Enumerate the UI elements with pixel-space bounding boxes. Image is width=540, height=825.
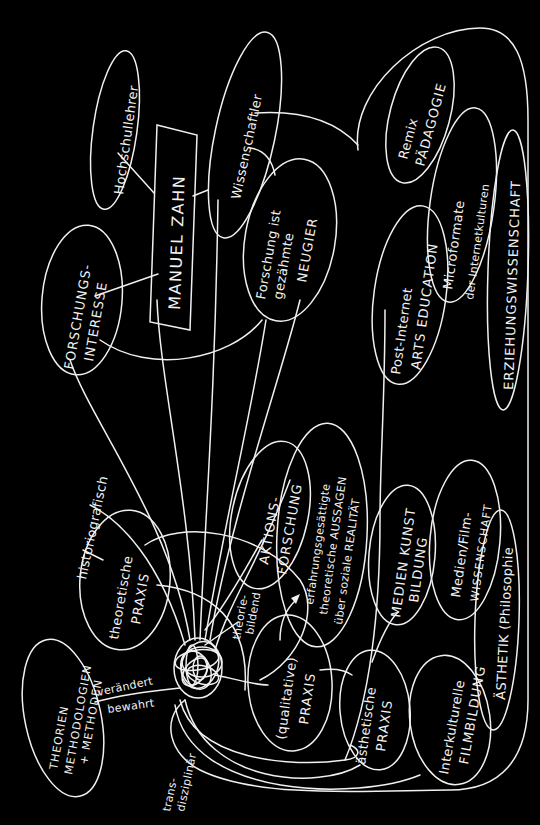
scribble-hub-icon [174, 636, 226, 698]
connector-wissenschaftler-loop [255, 112, 358, 145]
label-hochschullehrer: Hochschullehrer [111, 84, 141, 195]
annotation-historiografisch: historiografisch [74, 475, 111, 581]
concept-map-svg: MANUEL ZAHN Hochschullehrer Wissenschaft… [0, 0, 540, 825]
node-theorien-methodologien[interactable]: THEORIEN METHODOLOGIEN + METHODEN [9, 632, 117, 804]
node-qualitative-praxis[interactable]: (qualitative) PRAXIS [244, 613, 335, 753]
label-aesthetische-line2: PRAXIS [373, 699, 395, 753]
arrow-head-icon [291, 594, 300, 604]
annotation-bewahrt: bewahrt [107, 696, 156, 716]
label-aesthetik: ÄSTHETIK (Philosophie [493, 547, 516, 701]
ray [157, 300, 195, 640]
loop-bottom-1 [180, 700, 358, 763]
ray [70, 360, 190, 640]
node-erziehungswissenschaft[interactable]: ERZIEHUNGSWISSENSCHAFT [483, 129, 533, 410]
label-qualitative-line2: PRAXIS [296, 672, 318, 726]
label-postinternet-line2: ARTS EDUCATION [408, 242, 441, 371]
label-theoretische-line1: theoretische [106, 554, 135, 640]
node-manuel-zahn[interactable]: MANUEL ZAHN [150, 125, 197, 330]
node-remix-paedagogie[interactable]: Remix PÄDAGOGIE [373, 40, 467, 191]
center-label: MANUEL ZAHN [165, 175, 189, 311]
node-hochschullehrer[interactable]: Hochschullehrer [82, 48, 148, 213]
label-wissenschaftler: Wissenschaftler [228, 93, 265, 201]
node-forschungsinteresse[interactable]: FORSCHUNGS- INTERESSE [36, 222, 129, 378]
label-neugier-line3: NEUGIER [294, 216, 320, 283]
label-aktionsforschung-line2: FORSCHUNG [274, 482, 305, 575]
label-theoretische-line2: PRAXIS [128, 571, 152, 625]
connector-interesse-neugier [100, 320, 262, 360]
concept-map: MANUEL ZAHN Hochschullehrer Wissenschaft… [0, 0, 540, 825]
arrow-to-aussagen [280, 600, 296, 640]
node-post-internet-arts-education[interactable]: Post-Internet ARTS EDUCATION [362, 201, 458, 389]
node-neugier[interactable]: Forschung ist gezähmte NEUGIER [231, 151, 348, 328]
ray [200, 200, 218, 640]
label-microformate-line1: Microformate [440, 199, 467, 290]
